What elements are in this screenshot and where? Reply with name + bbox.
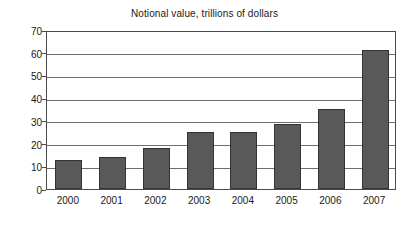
bar — [230, 132, 257, 189]
bar — [318, 109, 345, 189]
x-tick-label: 2004 — [232, 195, 254, 206]
bar — [187, 132, 214, 189]
y-tick-label: 0 — [0, 185, 42, 196]
x-tick-label: 2002 — [144, 195, 166, 206]
x-axis: 20002001200220032004200520062007 — [46, 195, 396, 215]
bar-chart: Notional value, trillions of dollars 010… — [0, 0, 409, 227]
y-tick-label: 70 — [0, 26, 42, 37]
y-tick-label: 50 — [0, 71, 42, 82]
bar — [143, 148, 170, 189]
bars-layer — [47, 32, 395, 189]
y-tick-label: 20 — [0, 139, 42, 150]
y-tick-label: 30 — [0, 116, 42, 127]
bar — [55, 160, 82, 189]
chart-title: Notional value, trillions of dollars — [0, 8, 409, 19]
y-axis: 010203040506070 — [0, 0, 42, 227]
bar — [274, 124, 301, 189]
y-tick-label: 60 — [0, 48, 42, 59]
x-tick-label: 2003 — [188, 195, 210, 206]
bar — [362, 50, 389, 189]
x-tick-label: 2005 — [276, 195, 298, 206]
y-tick-label: 10 — [0, 162, 42, 173]
x-tick-label: 2000 — [57, 195, 79, 206]
x-tick-label: 2006 — [319, 195, 341, 206]
x-tick-label: 2001 — [101, 195, 123, 206]
x-tick-label: 2007 — [363, 195, 385, 206]
y-tick-label: 40 — [0, 94, 42, 105]
bar — [99, 157, 126, 189]
plot-area — [46, 31, 396, 190]
